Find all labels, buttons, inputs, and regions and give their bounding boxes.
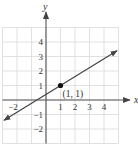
x-tick-label: 4 xyxy=(102,102,107,112)
coordinate-plane: −212344321−1−2 (1, 1) x y xyxy=(0,0,138,147)
y-tick-label: 1 xyxy=(39,81,44,91)
point-marker xyxy=(58,83,63,88)
x-tick-label: −2 xyxy=(8,102,18,112)
x-tick-label: 2 xyxy=(73,102,78,112)
point-label: (1, 1) xyxy=(63,89,84,100)
y-tick-label: 4 xyxy=(39,37,44,47)
axes xyxy=(3,12,131,144)
x-tick-label: 3 xyxy=(87,102,92,112)
x-axis-label: x xyxy=(133,94,138,105)
y-axis-label: y xyxy=(42,1,48,12)
y-tick-label: −2 xyxy=(33,124,43,134)
y-tick-label: 3 xyxy=(39,52,44,62)
x-tick-label: 1 xyxy=(58,102,63,112)
y-tick-label: −1 xyxy=(33,110,43,120)
y-tick-label: 2 xyxy=(39,66,44,76)
